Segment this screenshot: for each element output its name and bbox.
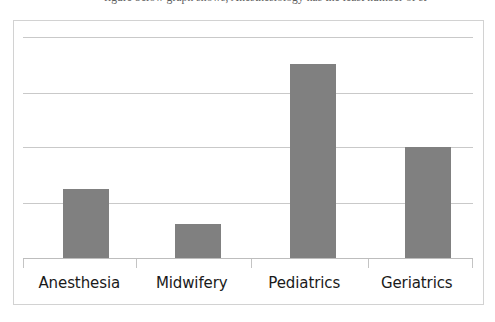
axis-tick-2 (251, 259, 252, 268)
caption-text: figure below graph shows, Anesthesiology… (104, 0, 427, 3)
bar-pediatrics[interactable] (290, 64, 336, 258)
axis-tick-0 (23, 259, 24, 268)
x-label-pediatrics: Pediatrics (248, 268, 361, 302)
plot-area (23, 36, 473, 259)
bar-anesthesia[interactable] (63, 189, 109, 258)
chart-frame: Anesthesia Midwifery Pediatrics Geriatri… (13, 20, 484, 305)
axis-tick-4 (472, 259, 473, 268)
cropped-caption-sliver: figure below graph shows, Anesthesiology… (0, 0, 495, 13)
x-label-geriatrics: Geriatrics (361, 268, 474, 302)
x-axis-labels: Anesthesia Midwifery Pediatrics Geriatri… (23, 268, 473, 302)
axis-tick-1 (136, 259, 137, 268)
x-label-anesthesia: Anesthesia (23, 268, 136, 302)
axis-tick-3 (368, 259, 369, 268)
gridline-3 (23, 93, 473, 94)
x-axis-line (23, 258, 473, 259)
bar-geriatrics[interactable] (405, 147, 451, 258)
bar-midwifery[interactable] (175, 224, 221, 258)
gridline-top (23, 37, 473, 38)
x-label-midwifery: Midwifery (136, 268, 249, 302)
